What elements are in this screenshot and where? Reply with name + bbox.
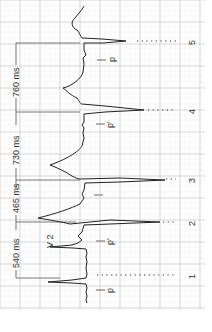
interval-label-540: 540 ms	[11, 238, 21, 268]
interval-label-760: 760 ms	[11, 67, 21, 97]
p-label-beat-1: p	[105, 288, 115, 293]
p-label-beat-2: p'	[105, 238, 115, 245]
beat-number-1: 1	[187, 274, 197, 279]
beat-number-2: 2	[187, 221, 197, 226]
ecg-strip: 760 ms 730 ms 465 ms 540 ms V 2 p p' p' …	[0, 0, 212, 332]
lead-label: V 2	[45, 234, 55, 248]
interval-labels: 760 ms 730 ms 465 ms 540 ms	[11, 67, 21, 268]
beat-number-5: 5	[187, 40, 197, 45]
beat-number-4: 4	[187, 109, 197, 114]
interval-label-465: 465 ms	[11, 183, 21, 213]
ecg-trace	[38, 6, 165, 303]
interval-label-730: 730 ms	[11, 135, 21, 165]
p-label-beat-4: p'	[105, 121, 115, 128]
p-label-beat-5: p	[107, 57, 117, 62]
beat-number-3: 3	[187, 178, 197, 183]
grid	[0, 0, 205, 310]
